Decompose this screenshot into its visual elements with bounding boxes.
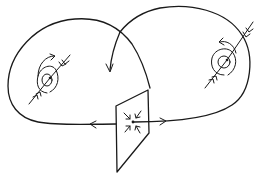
arrow-in-lowerright-icon	[135, 126, 140, 133]
arrow-in-lowerleft-icon	[125, 126, 130, 132]
arrow-in-upperleft-icon	[124, 113, 130, 119]
spiral-arrow-icon	[50, 54, 55, 60]
phase-portrait-svg	[0, 0, 264, 179]
double-arrow-in-icon	[59, 60, 69, 66]
arrow-down-icon	[106, 64, 113, 72]
diagram-canvas	[0, 0, 264, 179]
left-orbit-loop	[8, 19, 150, 128]
right-spiral-fixed-point	[205, 22, 253, 88]
descending-flow-arrow	[106, 32, 120, 72]
right-orbit-loop	[120, 6, 250, 125]
left-spiral-fixed-point	[29, 54, 70, 104]
cross-section-plane	[116, 90, 149, 172]
arrow-in-upperright-icon	[135, 111, 141, 118]
